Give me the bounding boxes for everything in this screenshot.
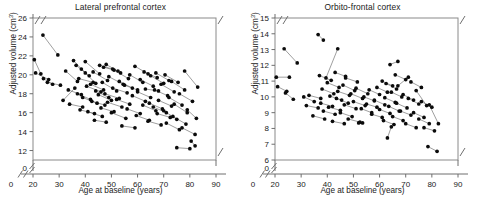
svg-text:20: 20 [29, 180, 38, 189]
svg-text:15: 15 [260, 14, 269, 23]
svg-text:20: 20 [271, 180, 280, 189]
svg-text:60: 60 [375, 180, 384, 189]
svg-text:30: 30 [55, 180, 64, 189]
svg-text:12: 12 [18, 147, 27, 156]
svg-text:13: 13 [260, 46, 269, 55]
svg-text:70: 70 [159, 180, 168, 189]
svg-text:16: 16 [18, 109, 27, 118]
svg-text:8: 8 [265, 124, 270, 133]
figure-root: Lateral prefrontal cortex Adjusted volum… [0, 0, 483, 204]
svg-text:9: 9 [265, 109, 270, 118]
svg-text:90: 90 [454, 180, 463, 189]
svg-text:60: 60 [133, 180, 142, 189]
data-layer [274, 33, 440, 153]
svg-text:30: 30 [297, 180, 306, 189]
svg-text:0: 0 [251, 180, 256, 189]
svg-text:26: 26 [18, 14, 27, 23]
svg-text:70: 70 [401, 180, 410, 189]
svg-text:20: 20 [18, 71, 27, 80]
svg-text:7: 7 [265, 140, 270, 149]
plot-area-orbito: 6789101112131415002030405060708090 [242, 0, 483, 204]
svg-text:50: 50 [349, 180, 358, 189]
svg-text:12: 12 [260, 61, 269, 70]
svg-text:80: 80 [185, 180, 194, 189]
svg-text:24: 24 [18, 33, 27, 42]
svg-text:14: 14 [18, 128, 27, 137]
svg-text:80: 80 [427, 180, 436, 189]
panel-lateral-prefrontal-cortex: Lateral prefrontal cortex Adjusted volum… [0, 0, 241, 204]
svg-text:22: 22 [18, 52, 27, 61]
svg-text:11: 11 [261, 77, 270, 86]
svg-text:50: 50 [107, 180, 116, 189]
data-layer [32, 33, 199, 150]
panel-orbito-frontal-cortex: Orbito-frontal cortex Adjusted volume (c… [242, 0, 483, 204]
svg-text:10: 10 [260, 93, 269, 102]
svg-text:0: 0 [9, 180, 14, 189]
svg-text:18: 18 [18, 90, 27, 99]
svg-text:14: 14 [260, 30, 269, 39]
svg-text:40: 40 [81, 180, 90, 189]
plot-area-lateral: 1214161820222426002030405060708090 [0, 0, 241, 204]
svg-text:90: 90 [212, 180, 221, 189]
svg-text:40: 40 [323, 180, 332, 189]
